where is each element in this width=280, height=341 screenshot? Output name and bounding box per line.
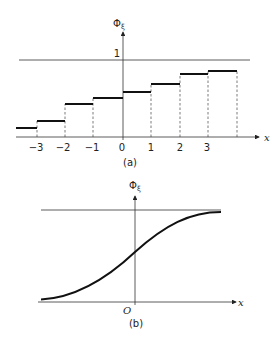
panel-caption-b: (b) bbox=[129, 318, 143, 329]
tick-label: −2 bbox=[56, 142, 71, 153]
origin-label: O bbox=[123, 305, 131, 316]
y-axis-label: Φξ bbox=[113, 18, 125, 31]
tick-label: 1 bbox=[148, 142, 154, 153]
x-axis-label: x bbox=[238, 297, 244, 308]
one-label: 1 bbox=[114, 48, 120, 59]
tick-label: −3 bbox=[29, 142, 44, 153]
y-axis-label: Φξ bbox=[129, 180, 141, 193]
tick-label: 3 bbox=[204, 142, 210, 153]
panel-b-continuous-chart: Φξ x O (b) bbox=[38, 180, 244, 329]
x-axis-label: x bbox=[264, 132, 270, 143]
panel-a-step-chart: Φξ 1 x −3 −2 −1 0 1 2 3 (a) bbox=[16, 18, 270, 168]
tick-label: −1 bbox=[85, 142, 100, 153]
tick-label: 0 bbox=[119, 142, 125, 153]
cdf-figure: Φξ 1 x −3 −2 −1 0 1 2 3 (a) Φξ x O (b) bbox=[0, 0, 280, 341]
cdf-curve bbox=[41, 212, 221, 300]
step-segments bbox=[16, 71, 237, 128]
tick-label: 2 bbox=[177, 142, 183, 153]
panel-caption-a: (a) bbox=[123, 157, 137, 168]
